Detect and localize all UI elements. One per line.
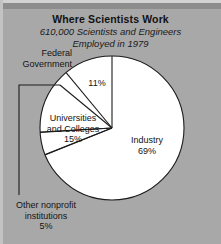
label-other-line-1: Other nonprofit xyxy=(4,200,88,211)
label-other-nonprofit: Other nonprofit institutions 5% xyxy=(4,200,88,232)
pie-chart-figure: Where Scientists Work 610,000 Scientists… xyxy=(0,0,221,244)
value-federal-government: 11% xyxy=(80,78,114,89)
label-federal-line-1: Federal xyxy=(6,48,72,59)
value-other-nonprofit: 5% xyxy=(4,221,88,232)
label-industry-line-1: Industry xyxy=(118,135,176,146)
label-universities-and-colleges: Universities and Colleges 15% xyxy=(30,113,116,145)
label-other-line-2: institutions xyxy=(4,211,88,222)
label-industry: Industry 69% xyxy=(118,135,176,156)
label-universities-line-1: Universities xyxy=(30,113,116,124)
value-industry: 69% xyxy=(118,146,176,157)
label-universities-line-2: and Colleges xyxy=(30,124,116,135)
label-federal-government: Federal Government xyxy=(6,48,72,69)
value-universities-and-colleges: 15% xyxy=(30,134,116,145)
label-federal-line-2: Government xyxy=(6,59,72,70)
